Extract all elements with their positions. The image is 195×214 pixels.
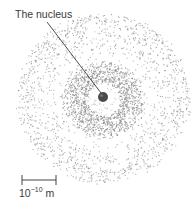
nucleus-label: The nucleus xyxy=(15,8,72,20)
scale-label: 10−10 m xyxy=(19,186,54,199)
leader-line xyxy=(47,22,101,93)
electron-cloud xyxy=(0,0,195,214)
nucleus xyxy=(98,92,108,102)
scale-unit: m xyxy=(45,187,54,199)
scale-exponent: −10 xyxy=(31,186,43,193)
scale-bar xyxy=(22,175,56,185)
atom-diagram: The nucleus 10−10 m xyxy=(0,0,195,214)
scale-base: 10 xyxy=(19,187,31,199)
